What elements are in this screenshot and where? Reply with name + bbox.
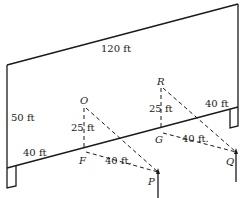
point-F: F bbox=[78, 155, 87, 166]
label-wall-length: 120 ft bbox=[101, 43, 131, 54]
point-R: R bbox=[156, 76, 165, 87]
label-OF: 25 ft bbox=[71, 122, 95, 133]
arrow-Q-icon bbox=[234, 148, 238, 154]
right-post bbox=[230, 107, 238, 128]
left-post bbox=[7, 166, 16, 188]
wall-diagram: 120 ft 50 ft 40 ft 40 ft 25 ft 40 ft. 25… bbox=[0, 0, 242, 198]
wall-top-edge bbox=[7, 4, 238, 65]
label-RG: 25 ft bbox=[149, 103, 173, 114]
label-left-segment: 40 ft bbox=[23, 147, 47, 158]
point-O: O bbox=[80, 95, 88, 106]
label-right-segment: 40 ft bbox=[205, 98, 229, 109]
label-GQ: 40 ft. bbox=[182, 133, 209, 144]
label-FP: 40 ft. bbox=[105, 155, 132, 166]
point-P: P bbox=[147, 176, 155, 187]
point-Q: Q bbox=[226, 156, 234, 167]
label-wall-height: 50 ft bbox=[11, 112, 35, 123]
point-G: G bbox=[155, 134, 163, 145]
